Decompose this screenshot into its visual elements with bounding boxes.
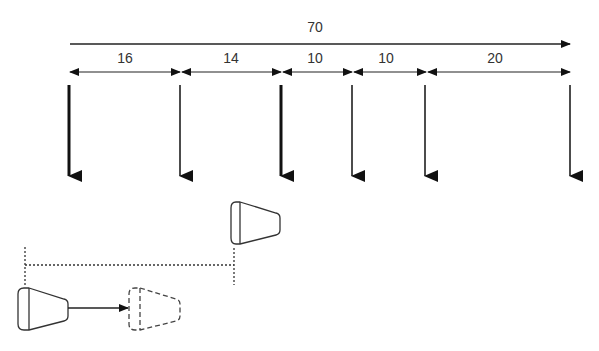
cup-shape-bottom (18, 288, 68, 330)
dotted-reference-line (25, 247, 234, 285)
diagram-canvas (0, 0, 599, 351)
total-length-label: 70 (307, 19, 323, 35)
segment-label-1: 16 (117, 50, 133, 66)
cup-shape-top (231, 202, 280, 244)
segment-label-5: 20 (487, 50, 503, 66)
segment-label-2: 14 (223, 50, 239, 66)
segment-label-4: 10 (378, 50, 394, 66)
cup-shape-ghost (129, 288, 180, 330)
segment-label-3: 10 (307, 50, 323, 66)
vertical-load-arrows (69, 85, 570, 176)
diagram: 70 16 14 10 10 20 (0, 0, 599, 351)
